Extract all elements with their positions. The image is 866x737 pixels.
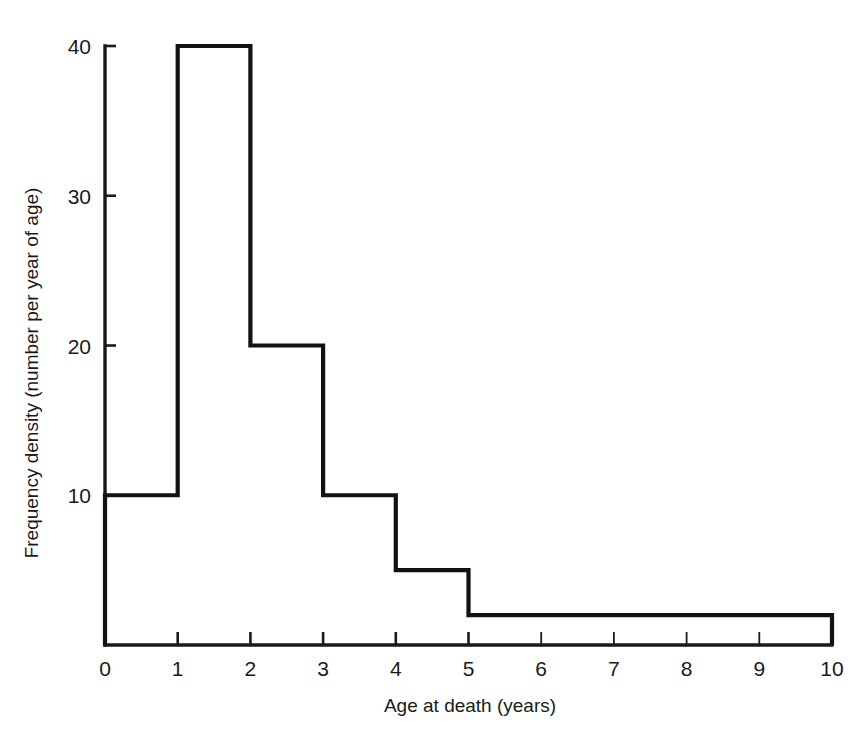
chart-background	[0, 0, 866, 737]
x-tick-label: 4	[390, 657, 402, 680]
histogram-figure: Frequency density (number per year of ag…	[0, 0, 866, 737]
x-tick-label: 3	[317, 657, 329, 680]
x-tick-label: 9	[753, 657, 765, 680]
x-tick-label: 2	[245, 657, 257, 680]
chart-canvas: Frequency density (number per year of ag…	[0, 0, 866, 737]
y-tick-label: 30	[68, 185, 91, 208]
x-tick-label: 6	[535, 657, 547, 680]
x-tick-label: 5	[463, 657, 475, 680]
x-axis-title: Age at death (years)	[384, 695, 556, 716]
x-tick-label: 0	[99, 657, 111, 680]
y-tick-label: 20	[68, 335, 91, 358]
y-tick-label: 40	[68, 35, 91, 58]
y-axis-title: Frequency density (number per year of ag…	[21, 188, 42, 559]
x-tick-label: 1	[172, 657, 184, 680]
x-tick-label: 7	[608, 657, 620, 680]
x-tick-label: 8	[681, 657, 693, 680]
x-tick-label: 10	[820, 657, 843, 680]
y-tick-label: 10	[68, 484, 91, 507]
